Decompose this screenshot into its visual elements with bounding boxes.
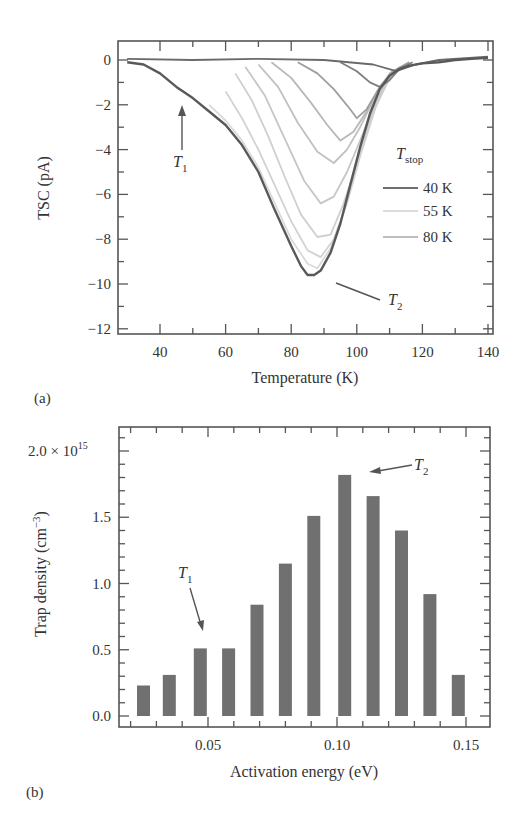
- tsc-curve: [258, 65, 406, 164]
- t1-label: T1: [178, 564, 192, 585]
- tsc-curve: [127, 57, 488, 72]
- y-tick-label: 0.0: [92, 708, 111, 724]
- y-tick-labels: 0.00.51.01.5: [92, 509, 111, 724]
- legend-entry-40k: 40 K: [383, 180, 453, 196]
- arrow-head-icon: [197, 620, 204, 631]
- bar: [338, 475, 351, 716]
- y-tick-label: 1.5: [92, 509, 111, 525]
- y-tick-label: −2: [95, 97, 111, 113]
- figure: 0−2−4−6−8−10−12 406080100120140 Temperat…: [0, 0, 529, 838]
- panel-label-b: (b): [26, 784, 44, 801]
- legend: Tstop 40 K 55 K 80 K: [383, 145, 453, 245]
- bar: [452, 675, 465, 716]
- x-tick-label: 80: [284, 344, 299, 360]
- x-tick-label: 40: [153, 344, 168, 360]
- x-tick-label: 0.15: [453, 737, 479, 753]
- bars: [137, 475, 465, 716]
- y-tick-label: −8: [95, 231, 111, 247]
- x-tick-labels: 0.050.100.15: [195, 737, 479, 753]
- annotation-t2: T2: [369, 456, 428, 477]
- bar: [279, 564, 292, 716]
- legend-entry-80k: 80 K: [383, 229, 453, 245]
- x-axis-label: Activation energy (eV): [230, 763, 378, 781]
- bar: [137, 686, 150, 717]
- t1-label: T1: [173, 153, 187, 174]
- x-tick-label: 140: [477, 344, 500, 360]
- bar: [307, 516, 320, 716]
- arrow-head-icon: [178, 105, 186, 116]
- x-axis-label: Temperature (K): [252, 369, 359, 387]
- panel-a-tsc-chart: 0−2−4−6−8−10−12 406080100120140 Temperat…: [34, 41, 499, 407]
- bar: [194, 648, 207, 716]
- bar: [222, 648, 235, 716]
- svg-text:55 K: 55 K: [423, 203, 453, 219]
- bar: [251, 605, 264, 716]
- t2-label: T2: [414, 456, 428, 477]
- y-tick-label: 0: [104, 52, 112, 68]
- y-tick-label: 1.0: [92, 576, 111, 592]
- bar: [395, 531, 408, 717]
- y-tick-label: 0.5: [92, 642, 111, 658]
- annotation-t1: T1: [173, 105, 187, 174]
- arrow-line: [378, 465, 412, 471]
- svg-text:80 K: 80 K: [423, 229, 453, 245]
- y-tick-label: −10: [88, 276, 111, 292]
- arrow-line: [190, 588, 201, 625]
- arrow-head-icon: [369, 467, 381, 474]
- x-tick-label: 100: [346, 344, 369, 360]
- t2-label: T2: [388, 291, 402, 312]
- x-tick-label: 0.10: [324, 737, 350, 753]
- y-tick-labels: 0−2−4−6−8−10−12: [88, 52, 112, 337]
- arrow-line: [336, 283, 380, 300]
- svg-text:40 K: 40 K: [423, 180, 453, 196]
- panel-b-trap-density-chart: 0.00.51.01.5 0.050.100.15 2.0 × 1015 Act…: [26, 427, 490, 801]
- y-axis-label: Trap density (cm−3): [30, 511, 50, 637]
- bar: [423, 594, 436, 716]
- panel-label-a: (a): [34, 390, 51, 407]
- bar: [367, 496, 380, 716]
- legend-entry-55k: 55 K: [383, 203, 453, 219]
- legend-title: Tstop: [396, 145, 424, 165]
- y-top-tick-label: 2.0 × 1015: [28, 440, 88, 459]
- x-tick-label: 0.05: [195, 737, 221, 753]
- x-tick-label: 120: [411, 344, 434, 360]
- x-tick-label: 60: [218, 344, 233, 360]
- y-tick-label: −4: [95, 142, 111, 158]
- y-tick-label: −6: [95, 186, 111, 202]
- annotation-t1: T1: [178, 564, 204, 631]
- y-axis-label: TSC (pA): [35, 156, 53, 220]
- y-tick-label: −12: [88, 321, 111, 337]
- annotation-t2: T2: [336, 283, 402, 312]
- bar: [163, 675, 176, 716]
- x-tick-labels: 406080100120140: [153, 344, 500, 360]
